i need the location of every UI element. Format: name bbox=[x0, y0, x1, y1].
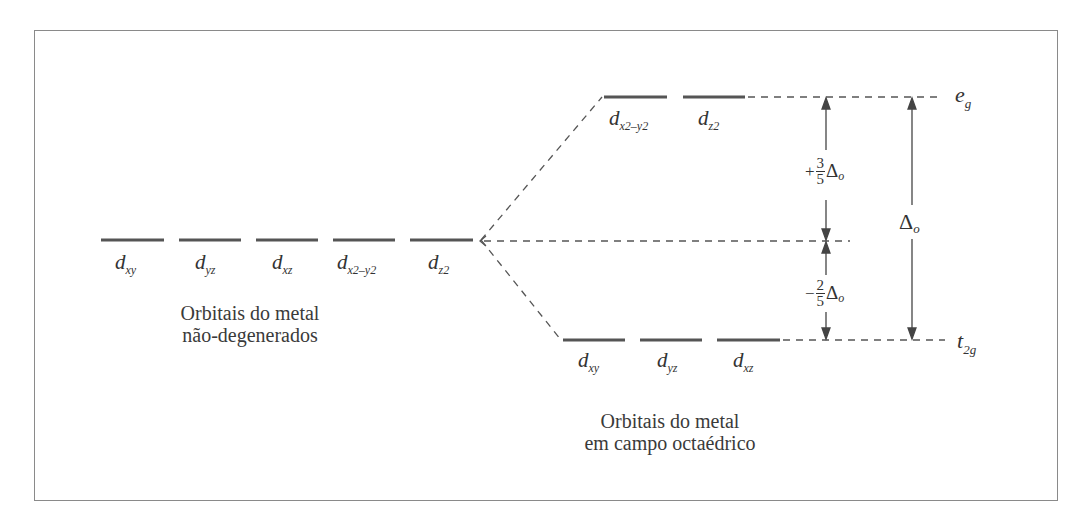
orbital-label-left-dxz: dxz bbox=[272, 252, 293, 276]
arrowhead-up bbox=[822, 242, 830, 253]
total-splitting-label: Δo bbox=[899, 207, 920, 239]
orbital-label-t2g-dxz: dxz bbox=[733, 350, 754, 374]
orbital-label-eg-dx2y2: dx2–y2 bbox=[609, 108, 648, 132]
upper-shift-label: + 35 Δo bbox=[805, 154, 844, 189]
orbital-label-t2g-dyz: dyz bbox=[657, 350, 678, 374]
orbital-label-eg-dz2: dz2 bbox=[698, 108, 719, 132]
orbital-label-left-dxy: dxy bbox=[115, 252, 136, 276]
orbital-label-left-dx2y2: dx2–y2 bbox=[337, 252, 376, 276]
caption-left: Orbitais do metal não-degenerados bbox=[130, 302, 370, 346]
correlation-line-down bbox=[481, 240, 561, 340]
t2g-label: t2g bbox=[957, 330, 976, 356]
arrowhead-down bbox=[908, 328, 916, 339]
caption-right: Orbitais do metal em campo octaédrico bbox=[550, 410, 790, 454]
orbital-label-t2g-dxy: dxy bbox=[578, 350, 599, 374]
correlation-line-up bbox=[481, 97, 602, 240]
orbital-label-left-dyz: dyz bbox=[195, 252, 216, 276]
eg-label: eg bbox=[955, 84, 971, 110]
arrowhead-up bbox=[908, 98, 916, 109]
lower-shift-label: − 25 Δo bbox=[805, 276, 844, 311]
arrowhead-up bbox=[822, 98, 830, 109]
orbital-lines bbox=[0, 0, 1090, 526]
orbital-label-left-dz2: dz2 bbox=[428, 252, 449, 276]
arrowhead-down bbox=[822, 229, 830, 240]
arrowhead-down bbox=[822, 328, 830, 339]
